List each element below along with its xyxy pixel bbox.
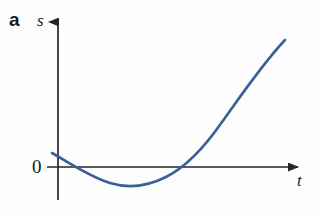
origin-tick-label: 0 [32, 157, 42, 176]
figure-panel-a: a s t 0 [0, 0, 322, 213]
y-axis-label: s [37, 12, 44, 29]
x-axis-label: t [297, 172, 302, 189]
figure-part-label: a [9, 10, 20, 29]
curve-s-of-t [52, 40, 285, 186]
position-time-graph [0, 0, 322, 213]
